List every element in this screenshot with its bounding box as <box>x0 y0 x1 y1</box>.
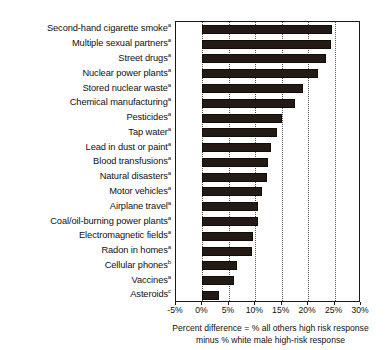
footnote-marker: a <box>168 200 171 206</box>
category-label: Pesticidesa <box>0 110 174 125</box>
category-label-text: Vaccinesa <box>132 275 171 285</box>
category-label-text: Pesticidesa <box>126 112 171 122</box>
x-axis: -5%0%5%10%15%20%25%30% <box>175 302 360 318</box>
category-label-column: Second-hand cigarette smokeaMultiple sex… <box>0 21 174 302</box>
x-tick-label: 25% <box>325 305 342 315</box>
caption-line-2: minus % white male high-risk response <box>150 335 391 347</box>
category-label: Vaccinesa <box>0 272 174 287</box>
bar <box>202 217 258 226</box>
bar-row <box>176 140 359 155</box>
footnote-marker: a <box>168 244 171 250</box>
bar <box>202 276 233 285</box>
category-label-text: Multiple sexual partnersa <box>72 38 171 48</box>
bar-row <box>176 96 359 111</box>
bar <box>202 291 219 300</box>
category-label-text: Asteroidsc <box>130 289 171 299</box>
footnote-marker: a <box>168 170 171 176</box>
footnote-marker: a <box>168 111 171 117</box>
category-label: Natural disastersa <box>0 169 174 184</box>
footnote-marker: a <box>168 81 171 87</box>
category-label-text: Chemical manufacturinga <box>70 97 171 107</box>
category-label-text: Coal/oil-burning power plantsa <box>50 216 171 226</box>
category-label-text: Airplane travela <box>110 201 171 211</box>
bar <box>202 128 277 137</box>
category-label: Motor vehiclesa <box>0 184 174 199</box>
category-label: Tap watera <box>0 124 174 139</box>
bar-row <box>176 199 359 214</box>
footnote-marker: a <box>168 52 171 58</box>
x-tick-label: 5% <box>222 305 234 315</box>
bar <box>202 247 251 256</box>
footnote-marker: b <box>168 259 171 265</box>
category-label-text: Motor vehiclesa <box>109 186 171 196</box>
category-label-text: Cellular phonesb <box>105 260 171 270</box>
footnote-marker: c <box>168 288 171 294</box>
bar <box>202 232 252 241</box>
category-label-text: Tap watera <box>128 127 171 137</box>
bar-row <box>176 125 359 140</box>
category-label: Nuclear power plantsa <box>0 65 174 80</box>
risk-perception-bar-chart: Second-hand cigarette smokeaMultiple sex… <box>0 0 391 350</box>
category-label: Chemical manufacturinga <box>0 95 174 110</box>
bar-row <box>176 155 359 170</box>
x-tick-label: 0% <box>195 305 207 315</box>
footnote-marker: a <box>168 96 171 102</box>
category-label: Coal/oil-burning power plantsa <box>0 213 174 228</box>
bar-row <box>176 273 359 288</box>
bar-row <box>176 185 359 200</box>
bar <box>202 99 295 108</box>
bar-row <box>176 22 359 37</box>
category-label-text: Stored nuclear wastea <box>82 83 171 93</box>
footnote-marker: a <box>168 214 171 220</box>
category-label-text: Electromagnetic fieldsa <box>79 230 171 240</box>
category-label-text: Street drugsa <box>118 53 171 63</box>
footnote-marker: a <box>168 22 171 28</box>
footnote-marker: a <box>168 37 171 43</box>
category-label-text: Second-hand cigarette smokea <box>47 23 171 33</box>
caption-line-1: Percent difference = % all others high r… <box>150 323 391 335</box>
bar <box>202 84 303 93</box>
bar-row <box>176 37 359 52</box>
bar-row <box>176 214 359 229</box>
category-label: Lead in dust or painta <box>0 139 174 154</box>
plot-area <box>175 21 360 302</box>
bar-row <box>176 229 359 244</box>
category-label: Asteroidsc <box>0 287 174 302</box>
category-label-text: Lead in dust or painta <box>86 142 171 152</box>
x-tick-label: 20% <box>299 305 316 315</box>
bar-row <box>176 288 359 301</box>
bar-row <box>176 111 359 126</box>
category-label: Cellular phonesb <box>0 258 174 273</box>
category-label-text: Radon in homesa <box>101 245 171 255</box>
bar <box>202 202 258 211</box>
category-label: Stored nuclear wastea <box>0 80 174 95</box>
bar-row <box>176 244 359 259</box>
x-axis-caption: Percent difference = % all others high r… <box>150 323 391 346</box>
bar-row <box>176 81 359 96</box>
category-label: Second-hand cigarette smokea <box>0 21 174 36</box>
bar <box>202 158 268 167</box>
x-tick-label: 10% <box>246 305 263 315</box>
footnote-marker: a <box>168 67 171 73</box>
bar <box>202 187 262 196</box>
bar <box>202 69 318 78</box>
bar-row <box>176 66 359 81</box>
category-label: Airplane travela <box>0 198 174 213</box>
bar-row <box>176 52 359 67</box>
category-label: Electromagnetic fieldsa <box>0 228 174 243</box>
footnote-marker: a <box>168 126 171 132</box>
bar <box>202 173 267 182</box>
bar <box>202 54 325 63</box>
category-label: Radon in homesa <box>0 243 174 258</box>
category-label: Street drugsa <box>0 51 174 66</box>
bar <box>202 25 332 34</box>
bar <box>202 114 281 123</box>
bar-row <box>176 170 359 185</box>
bar-series <box>176 22 359 301</box>
footnote-marker: a <box>168 155 171 161</box>
footnote-marker: a <box>168 141 171 147</box>
footnote-marker: a <box>168 274 171 280</box>
bar-row <box>176 259 359 274</box>
bar <box>202 143 270 152</box>
category-label-text: Natural disastersa <box>100 171 171 181</box>
